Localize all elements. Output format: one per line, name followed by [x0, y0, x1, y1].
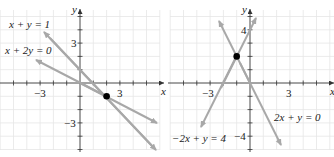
- right-graph: −2x + y = 4 2x + y = 0 −3 3 4 −4 x y: [168, 3, 334, 152]
- right-tick-x-pos: 3: [286, 87, 292, 99]
- line-2x-plus-y-eq-0-tail: [240, 63, 281, 145]
- right-axis-y-label: y: [241, 3, 247, 15]
- left-graph: x + y = 1 x + 2y = 0 −3 3 3 −3 x y: [0, 3, 166, 152]
- left-tick-y-pos: 3: [71, 37, 77, 49]
- right-label-eq1: −2x + y = 4: [172, 132, 227, 144]
- left-axis-y-label: y: [71, 3, 77, 15]
- right-axis-x-label: x: [329, 85, 334, 97]
- figure: x + y = 1 x + 2y = 0 −3 3 3 −3 x y: [0, 0, 334, 157]
- right-grid: [170, 10, 334, 150]
- right-tick-x-neg: −3: [202, 87, 214, 99]
- right-intersection-point: [233, 53, 240, 60]
- left-axis-x-label: x: [160, 85, 166, 97]
- right-tick-y-neg: −4: [234, 130, 246, 142]
- right-tick-y-pos: 4: [241, 24, 247, 36]
- left-tick-y-neg: −3: [64, 117, 76, 129]
- left-tick-x-pos: 3: [117, 87, 123, 99]
- left-label-eq1: x + y = 1: [8, 18, 50, 30]
- right-label-eq2: 2x + y = 0: [274, 111, 321, 123]
- left-tick-x-neg: −3: [34, 87, 46, 99]
- left-label-eq2: x + 2y = 0: [4, 44, 52, 56]
- left-intersection-point: [103, 93, 110, 100]
